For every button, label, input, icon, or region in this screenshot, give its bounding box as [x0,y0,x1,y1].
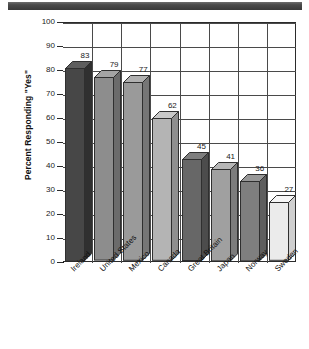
bar-great-britain[interactable] [182,153,201,261]
gridline-vertical [267,23,268,263]
plot-area [63,22,296,262]
bar-3d-shape [182,152,209,261]
bar-value-label: 77 [133,66,153,74]
y-tick-label: 50 [15,138,55,146]
y-tick-label: 30 [15,186,55,194]
bar-value-label: 36 [250,165,270,173]
y-tick-label: 10 [15,234,55,242]
bar-3d-shape [94,70,121,261]
bar-value-label: 41 [221,153,241,161]
bar-sweden[interactable] [269,196,288,261]
y-tick-label: 20 [15,210,55,218]
bar-3d-shape [65,61,92,261]
bar-chart: Percent Responding "Yes" 100908070605040… [0,0,309,349]
y-tick-label: 90 [15,42,55,50]
bar-value-label: 79 [104,61,124,69]
bar-canada[interactable] [152,112,171,261]
y-tick-label: 60 [15,114,55,122]
chart-page: Percent Responding "Yes" 100908070605040… [0,0,309,349]
bar-norway[interactable] [240,175,259,261]
bar-ireland[interactable] [65,62,84,261]
y-tick-label: 0 [15,258,55,266]
y-tick-label: 100 [15,18,55,26]
bar-3d-shape [123,75,150,261]
y-tick-label: 70 [15,90,55,98]
bar-value-label: 83 [75,52,95,60]
y-tick-label: 80 [15,66,55,74]
bar-value-label: 27 [279,186,299,194]
bar-value-label: 45 [192,143,212,151]
y-tick-label: 40 [15,162,55,170]
gridline-vertical [121,23,122,263]
bar-3d-shape [152,111,179,261]
y-tick-mark [57,262,63,263]
bar-value-label: 62 [162,102,182,110]
bar-united-states[interactable] [94,71,113,261]
